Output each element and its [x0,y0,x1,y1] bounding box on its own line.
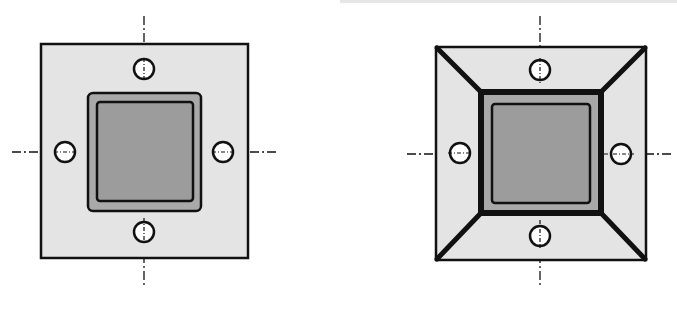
left-view [12,16,276,286]
right-column-core [492,104,590,203]
left-column-core [97,102,193,201]
right-view [407,16,672,286]
drawing-canvas [0,0,677,311]
